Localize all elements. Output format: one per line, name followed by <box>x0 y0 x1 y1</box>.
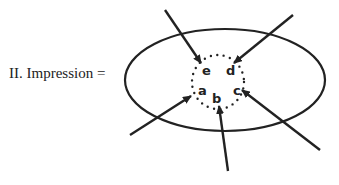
impression-diagram: II. Impression = edabc <box>0 0 339 185</box>
letter-c: c <box>233 83 241 98</box>
arrows-group <box>130 10 320 171</box>
impression-label: II. Impression = <box>9 65 105 82</box>
letter-d: d <box>226 63 235 78</box>
diagram-canvas: edabc <box>0 0 339 185</box>
letter-a: a <box>198 83 207 98</box>
arrow-bottom-right <box>242 90 320 150</box>
arrow-bottom-left <box>130 96 191 135</box>
arrow-bottom-center <box>219 106 228 171</box>
letter-b: b <box>212 91 221 106</box>
outer-ellipse <box>125 29 325 131</box>
letter-e: e <box>202 63 211 78</box>
letters-group: edabc <box>198 63 241 106</box>
